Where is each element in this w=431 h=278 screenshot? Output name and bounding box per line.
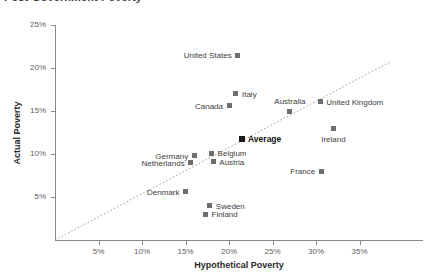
data-point-france: [319, 169, 324, 174]
x-tick-label: 5%: [84, 247, 114, 256]
data-point-italy: [233, 91, 238, 96]
data-point-label-netherlands: Netherlands: [142, 158, 185, 167]
data-point-label-united-states: United States: [184, 51, 232, 60]
data-point-belgium: [209, 151, 214, 156]
data-point-austria: [211, 159, 216, 164]
data-point-denmark: [183, 189, 188, 194]
data-point-germany: [192, 153, 197, 158]
data-point-average: [239, 136, 245, 142]
plot-area: 5%10%15%20%25% 5%10%15%20%25%30%35% Unit…: [0, 0, 431, 278]
x-tick-label: 15%: [171, 247, 201, 256]
data-point-label-austria: Austria: [219, 157, 244, 166]
data-point-netherlands: [188, 160, 193, 165]
data-point-label-denmark: Denmark: [147, 187, 179, 196]
data-point-label-finland: Finland: [212, 210, 238, 219]
data-point-sweden: [207, 203, 212, 208]
x-tick-label: 35%: [345, 247, 375, 256]
y-tick-mark: [51, 197, 55, 198]
x-tick-mark: [360, 241, 361, 245]
x-tick-mark: [186, 241, 187, 245]
y-tick-label: 25%: [14, 20, 46, 29]
y-tick-mark: [51, 25, 55, 26]
data-point-label-united-kingdom: United Kingdom: [326, 97, 383, 106]
data-point-canada: [227, 103, 232, 108]
x-tick-label: 25%: [258, 247, 288, 256]
data-point-label-ireland: Ireland: [321, 135, 345, 144]
x-tick-mark: [273, 241, 274, 245]
data-point-label-france: France: [290, 167, 315, 176]
data-point-finland: [203, 212, 208, 217]
x-axis-title: Hypothetical Poverty: [55, 260, 423, 270]
y-axis-title: Actual Poverty: [12, 83, 22, 183]
x-tick-mark: [229, 241, 230, 245]
data-point-label-italy: Italy: [242, 89, 257, 98]
data-point-ireland: [331, 126, 336, 131]
y-tick-mark: [51, 68, 55, 69]
data-point-label-canada: Canada: [195, 101, 223, 110]
identity-reference-line: [0, 0, 431, 278]
x-tick-mark: [316, 241, 317, 245]
data-point-australia: [287, 109, 292, 114]
y-axis-line: [55, 25, 56, 241]
y-tick-label: 20%: [14, 63, 46, 72]
x-tick-mark: [142, 241, 143, 245]
data-point-label-australia: Australia: [274, 97, 305, 106]
y-tick-mark: [51, 154, 55, 155]
x-tick-label: 20%: [214, 247, 244, 256]
x-axis-line: [55, 240, 423, 241]
x-tick-label: 10%: [127, 247, 157, 256]
y-tick-mark: [51, 111, 55, 112]
x-tick-label: 30%: [301, 247, 331, 256]
y-tick-label: 5%: [14, 192, 46, 201]
data-point-label-average: Average: [248, 134, 281, 143]
data-point-united-states: [235, 53, 240, 58]
scatter-chart: Post-Government Poverty 5%10%15%20%25% 5…: [0, 0, 431, 278]
data-point-united-kingdom: [318, 99, 323, 104]
x-tick-mark: [99, 241, 100, 245]
